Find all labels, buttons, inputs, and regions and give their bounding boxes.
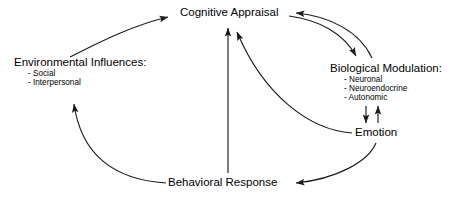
node-behavioral-response: Behavioral Response [168,176,277,189]
edge-behavioral-to-environmental [74,104,166,183]
edge-environmental-to-cognitive [70,17,168,57]
node-biological-modulation-label: Biological Modulation: [330,62,442,75]
node-environmental-influences-bullets: - Social - Interpersonal [14,69,146,87]
list-item: - Neuronal [344,75,442,84]
node-biological-modulation: Biological Modulation: - Neuronal - Neur… [330,62,442,102]
edge-emotion-to-behavioral [296,143,376,183]
node-cognitive-appraisal: Cognitive Appraisal [180,6,278,19]
node-emotion: Emotion [355,126,397,139]
list-item: - Autonomic [344,93,442,102]
edge-cognitive-to-biological [289,16,356,56]
node-biological-modulation-bullets: - Neuronal - Neuroendocrine - Autonomic [330,75,442,103]
node-emotion-label: Emotion [355,126,397,139]
list-item: - Neuroendocrine [344,84,442,93]
node-behavioral-response-label: Behavioral Response [168,176,277,189]
list-item: - Social [28,69,146,78]
node-environmental-influences-label: Environmental Influences: [14,56,146,69]
node-cognitive-appraisal-label: Cognitive Appraisal [180,6,278,19]
node-environmental-influences: Environmental Influences: - Social - Int… [14,56,146,87]
diagram-canvas: Cognitive Appraisal Environmental Influe… [0,0,462,204]
list-item: - Interpersonal [28,78,146,87]
